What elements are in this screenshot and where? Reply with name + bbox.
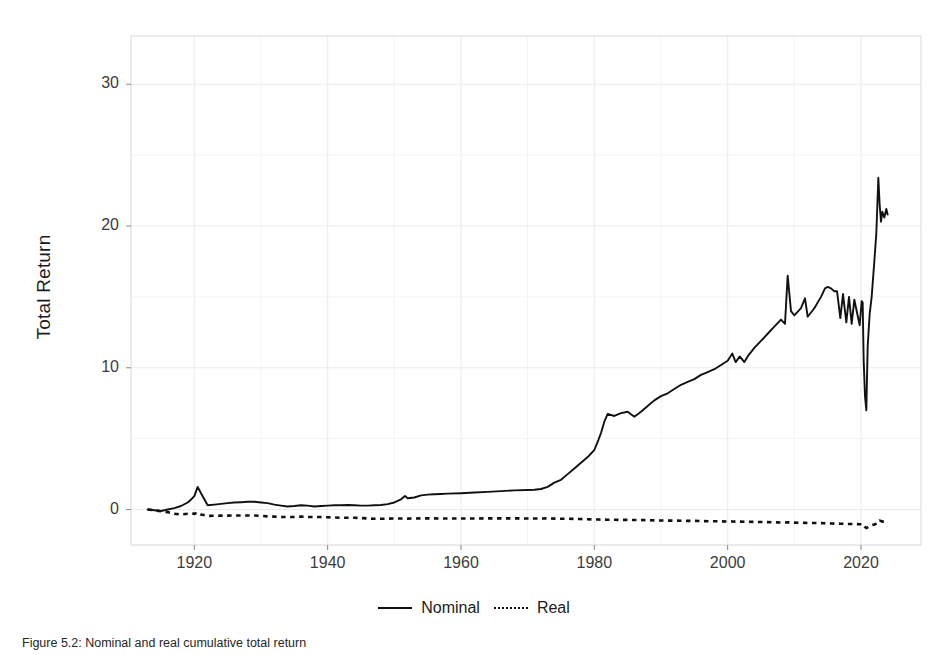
legend-key-dashed-line-icon (494, 607, 528, 609)
y-axis-title: Total Return (33, 177, 55, 397)
x-tick-label: 2000 (693, 554, 763, 572)
y-tick-label: 30 (73, 74, 119, 92)
x-tick-label: 2020 (826, 554, 896, 572)
x-tick-label: 1980 (559, 554, 629, 572)
x-tick-label: 1920 (159, 554, 229, 572)
figure-container: Total Return 0102030 1920194019601980200… (0, 0, 948, 655)
y-tick-label: 0 (73, 500, 119, 518)
legend-item-nominal[interactable]: Nominal (378, 600, 480, 616)
y-tick-label: 10 (73, 358, 119, 376)
y-tick-label: 20 (73, 216, 119, 234)
plot-panel-background (131, 36, 921, 545)
x-tick-label: 1940 (293, 554, 363, 572)
legend-key-solid-line-icon (378, 607, 412, 609)
chart-legend: Nominal Real (0, 600, 948, 616)
x-tick-label: 1960 (426, 554, 496, 572)
legend-label-nominal: Nominal (421, 600, 480, 616)
figure-caption: Figure 5.2: Nominal and real cumulative … (22, 636, 922, 655)
legend-label-real: Real (537, 600, 570, 616)
legend-item-real[interactable]: Real (494, 600, 570, 616)
